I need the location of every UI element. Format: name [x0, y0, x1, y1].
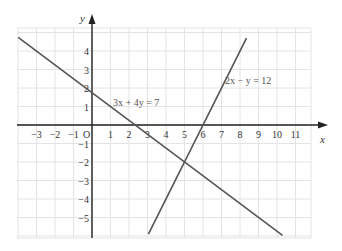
y-axis-label: y [79, 12, 85, 24]
x-axis-arrow-icon [318, 122, 328, 129]
y-tick-label: −2 [78, 157, 89, 168]
x-axis-label: x [319, 133, 325, 145]
y-tick-label: −3 [78, 176, 89, 187]
linear-equations-graph: −3−2−112345678910114321−1−2−3−4−5 y x O … [0, 0, 342, 251]
x-tick-label: −1 [68, 129, 79, 140]
x-tick-label: −2 [50, 129, 61, 140]
x-tick-label: 10 [272, 129, 282, 140]
origin-label: O [83, 129, 90, 140]
y-tick-label: 4 [84, 46, 89, 57]
x-tick-label: 4 [164, 129, 169, 140]
x-tick-label: 9 [256, 129, 261, 140]
x-tick-label: 5 [182, 129, 187, 140]
y-axis-arrow-icon [89, 14, 96, 24]
equation-label-1: 3x + 4y = 7 [113, 97, 159, 108]
axes [17, 14, 328, 238]
x-tick-label: 8 [238, 129, 243, 140]
x-tick-label: 6 [201, 129, 206, 140]
equation-label-2: 2x − y = 12 [225, 75, 271, 86]
x-tick-label: 7 [219, 129, 224, 140]
y-tick-label: 3 [84, 65, 89, 76]
x-tick-label: 1 [108, 129, 113, 140]
y-tick-label: 1 [84, 102, 89, 113]
x-tick-label: −3 [31, 129, 42, 140]
x-tick-label: 2 [127, 129, 132, 140]
y-tick-label: −5 [78, 213, 89, 224]
y-tick-label: −1 [78, 139, 89, 150]
x-tick-label: 11 [291, 129, 301, 140]
y-tick-label: −4 [78, 194, 89, 205]
